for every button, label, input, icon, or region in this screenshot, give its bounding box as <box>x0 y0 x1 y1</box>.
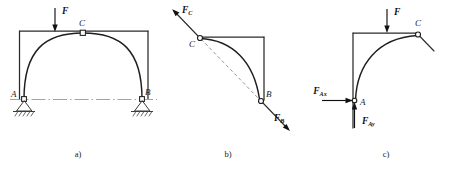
figure-canvas: F C A <box>0 0 453 173</box>
panel-b-caption: b) <box>224 149 231 159</box>
panel-b-joint-c <box>198 36 203 41</box>
panel-c-load-label: F <box>393 7 401 17</box>
panel-a-support-b-hatching <box>133 112 152 117</box>
panel-b-label-c: C <box>189 39 196 49</box>
panel-c-caption: c) <box>383 149 390 159</box>
panel-a-crown-label: C <box>79 18 86 28</box>
panel-c-stub-line <box>420 37 434 52</box>
panel-c-label-c: C <box>415 18 422 28</box>
panel-c-reaction-x-arrowhead <box>346 98 354 103</box>
panel-a-arch <box>24 33 142 99</box>
panel-a-support-b-triangle <box>135 101 150 111</box>
panel-a-label-b: B <box>145 87 151 97</box>
panel-a-support-a-triangle <box>17 101 32 111</box>
panel-b-label-b: B <box>266 89 272 99</box>
panel-a-load-label: F <box>61 6 69 16</box>
panel-c: F C A FAx FAy c) <box>312 7 434 159</box>
panel-a-crown-hinge <box>80 30 85 35</box>
panel-a-support-a-hatching <box>15 112 34 117</box>
panel-b: FC C B FB b) <box>172 5 290 159</box>
panel-b-force-b-label: FB <box>273 113 284 124</box>
panel-b-arch <box>200 39 260 100</box>
panel-c-reaction-x-label: FAx <box>312 86 327 97</box>
panel-c-load-arrowhead <box>384 26 389 34</box>
panel-c-reaction-y-label: FAy <box>361 116 375 127</box>
panel-c-label-a: A <box>359 97 366 107</box>
panel-a-caption: a) <box>75 149 82 159</box>
panel-a: F C A <box>10 6 157 159</box>
panel-c-arch <box>356 36 418 101</box>
mechanics-figure: F C A <box>0 0 453 173</box>
panel-a-label-a: A <box>10 89 17 99</box>
panel-b-force-c-label: FC <box>181 5 193 16</box>
